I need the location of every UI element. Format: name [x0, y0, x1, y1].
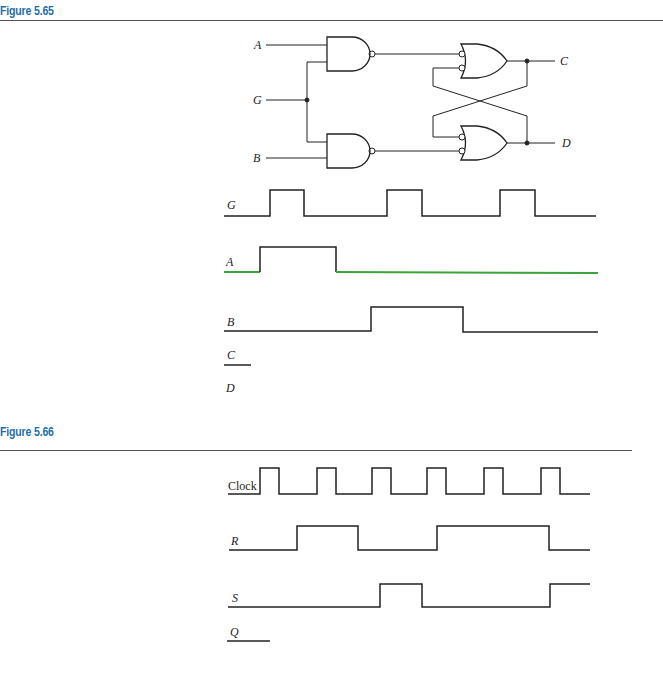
- label-input-b: B: [253, 151, 261, 165]
- timing-label-q: Q: [230, 625, 239, 639]
- label-output-d: D: [561, 136, 571, 150]
- nand-gate-bottom: [327, 134, 370, 168]
- timing-diagram-5-66: [227, 468, 590, 641]
- figure-canvas: A G B C D G A B C D Clock R S Q: [0, 0, 663, 682]
- waveform-a-high: [260, 247, 336, 272]
- or-bottom-bubble-1: [459, 134, 465, 140]
- timing-label-r: R: [230, 534, 239, 548]
- timing-label-c: C: [227, 348, 236, 362]
- or-top-bubble-1: [459, 51, 465, 57]
- timing-label-clock: Clock: [228, 479, 257, 493]
- wire-g-branch: [307, 62, 327, 142]
- waveform-r: [229, 526, 590, 550]
- or-bottom-bubble-2: [459, 148, 465, 154]
- timing-label-g: G: [227, 198, 236, 212]
- or-gate-bottom: [461, 126, 507, 160]
- logic-circuit: [266, 37, 555, 168]
- waveform-s: [228, 584, 590, 607]
- waveform-g: [224, 190, 596, 216]
- waveform-a-low-2: [336, 272, 598, 273]
- waveform-clock: [228, 468, 590, 494]
- or-gate-top: [461, 44, 507, 78]
- nand-gate-top: [327, 37, 370, 71]
- timing-label-d: D: [225, 381, 235, 395]
- feedback-c-to-bottom: [433, 61, 527, 137]
- waveform-b: [224, 307, 598, 332]
- timing-diagram-5-65: [224, 190, 598, 365]
- label-output-c: C: [560, 54, 569, 68]
- or-top-bubble-2: [459, 65, 465, 71]
- label-input-a: A: [253, 38, 262, 52]
- label-input-g: G: [253, 93, 262, 107]
- junction-dot-g: [305, 98, 309, 102]
- timing-label-b: B: [227, 315, 235, 329]
- timing-label-a: A: [225, 255, 234, 269]
- feedback-d-to-top: [433, 68, 527, 143]
- timing-label-s: S: [232, 591, 238, 605]
